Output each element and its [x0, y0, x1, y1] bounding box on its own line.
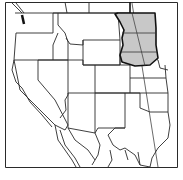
- locator-map: [0, 0, 183, 180]
- highlighted-region-dakotas: [115, 13, 158, 66]
